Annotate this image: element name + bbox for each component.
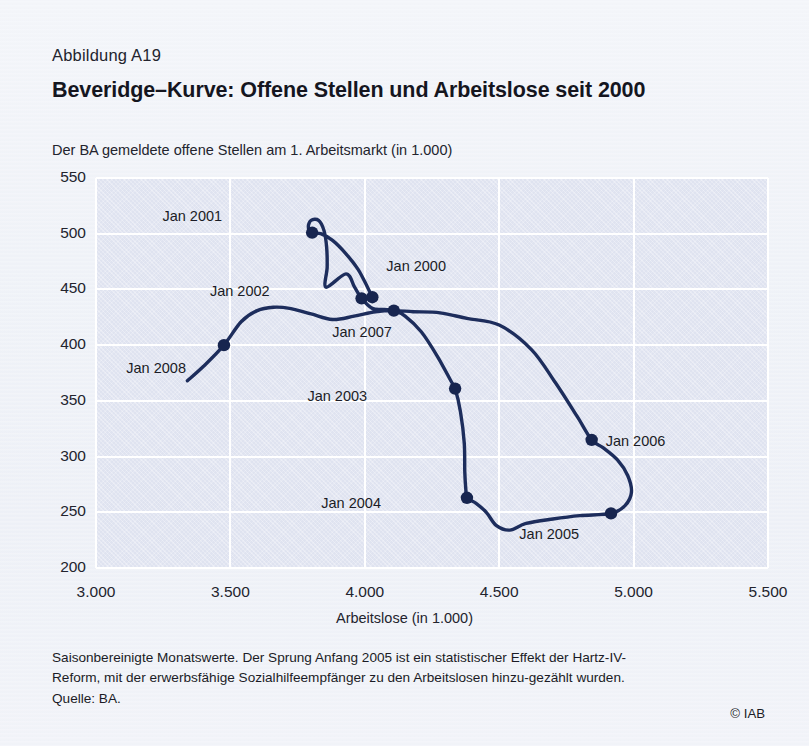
data-point-marker [388, 304, 400, 316]
y-tick-label: 250 [40, 502, 86, 520]
data-point-label: Jan 2005 [519, 526, 579, 542]
figure-title: Beveridge–Kurve: Offene Stellen und Arbe… [52, 78, 645, 103]
x-tick-label: 3.500 [185, 583, 275, 601]
y-tick-label: 300 [40, 447, 86, 465]
footnote-line-1: Saisonbereinigte Monatswerte. Der Sprung… [52, 648, 760, 668]
data-point-label: Jan 2001 [162, 208, 222, 224]
data-point-marker [218, 339, 230, 351]
source-line: Quelle: BA. [52, 689, 760, 709]
figure-panel: Abbildung A19 Beveridge–Kurve: Offene St… [0, 0, 809, 746]
data-point-label: Jan 2000 [386, 258, 446, 274]
data-point-marker [366, 291, 378, 303]
figure-number: Abbildung A19 [52, 46, 161, 65]
data-point-marker [355, 292, 367, 304]
data-point-marker [306, 226, 318, 238]
x-axis-title: Arbeitslose (in 1.000) [0, 610, 809, 626]
data-point-marker [585, 434, 597, 446]
data-point-label: Jan 2003 [307, 388, 367, 404]
copyright-notice: © IAB [730, 706, 765, 721]
data-point-marker [461, 492, 473, 504]
data-point-label: Jan 2008 [126, 360, 186, 376]
footnote-line-2: Reform, mit der erwerbsfähige Sozialhilf… [52, 668, 760, 688]
x-tick-label: 4.500 [454, 583, 544, 601]
data-point-label: Jan 2004 [321, 495, 381, 511]
x-tick-label: 4.000 [320, 583, 410, 601]
data-point-label: Jan 2007 [332, 324, 392, 340]
data-point-label: Jan 2002 [210, 283, 270, 299]
y-tick-label: 200 [40, 558, 86, 576]
y-tick-label: 450 [40, 279, 86, 297]
x-axis-ticks: 3.0003.5004.0004.5005.0005.500 [96, 583, 768, 605]
data-point-marker [605, 507, 617, 519]
y-tick-label: 350 [40, 391, 86, 409]
x-tick-label: 5.500 [723, 583, 809, 601]
plot-area [96, 178, 768, 568]
x-tick-label: 3.000 [51, 583, 141, 601]
data-point-marker [449, 382, 461, 394]
beveridge-curve-svg [96, 178, 768, 568]
x-tick-label: 5.000 [589, 583, 679, 601]
y-tick-label: 550 [40, 168, 86, 186]
y-tick-label: 500 [40, 224, 86, 242]
footnote: Saisonbereinigte Monatswerte. Der Sprung… [52, 648, 760, 709]
y-tick-label: 400 [40, 335, 86, 353]
y-axis-ticks: 200250300350400450500550 [38, 178, 86, 568]
y-axis-title: Der BA gemeldete offene Stellen am 1. Ar… [52, 142, 452, 158]
data-point-label: Jan 2006 [606, 433, 666, 449]
